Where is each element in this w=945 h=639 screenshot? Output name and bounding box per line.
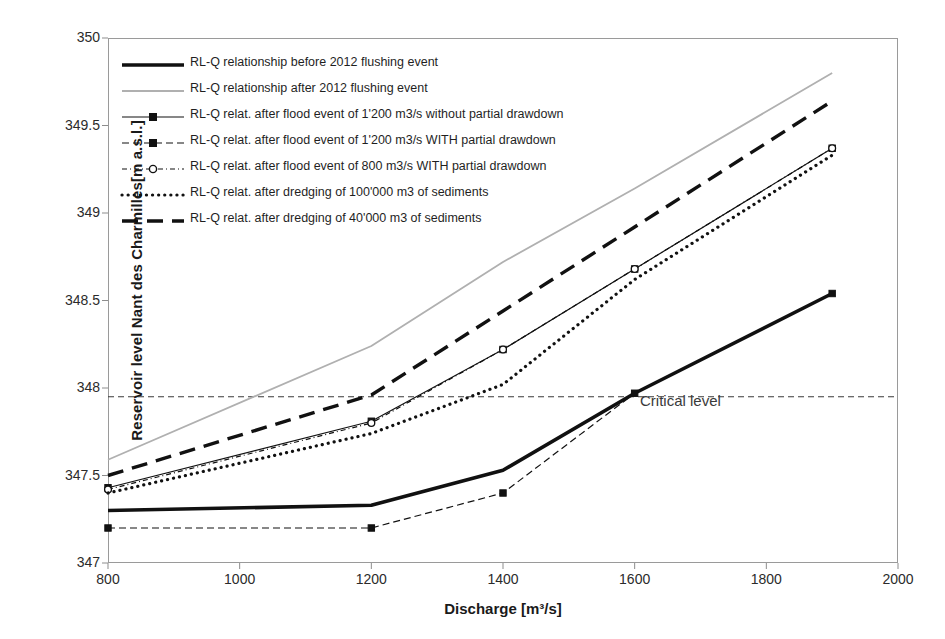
y-tick-label: 348.5: [48, 292, 100, 308]
legend-item-label: RL-Q relat. after dredging of 100'000 m3…: [190, 185, 488, 199]
legend-line-sample: [120, 104, 186, 130]
data-point: [500, 346, 507, 353]
legend-item-label: RL-Q relat. after flood event of 1'200 m…: [190, 107, 563, 121]
y-tick-label: 349.5: [48, 117, 100, 133]
legend-line-sample: [120, 208, 186, 234]
legend-item[interactable]: RL-Q relat. after dredging of 40'000 m3 …: [120, 208, 740, 234]
data-point: [829, 290, 835, 296]
y-tick-label: 347.5: [48, 467, 100, 483]
legend-item[interactable]: RL-Q relationship before 2012 flushing e…: [120, 52, 740, 78]
data-point: [368, 420, 375, 427]
data-point: [105, 525, 111, 531]
series-0: [108, 294, 832, 511]
x-tick-label: 1000: [205, 571, 275, 587]
x-tick-label: 2000: [863, 571, 933, 587]
legend-item[interactable]: RL-Q relat. after flood event of 800 m3/…: [120, 156, 740, 182]
legend-line-sample: [120, 156, 186, 182]
data-point: [500, 490, 506, 496]
x-tick-label: 1800: [731, 571, 801, 587]
y-tick-label: 347: [48, 554, 100, 570]
x-tick-label: 1200: [336, 571, 406, 587]
legend-item-label: RL-Q relat. after dredging of 40'000 m3 …: [190, 211, 481, 225]
data-point: [631, 266, 638, 273]
legend-item[interactable]: RL-Q relat. after dredging of 100'000 m3…: [120, 182, 740, 208]
series-3: [105, 290, 836, 531]
legend-item[interactable]: RL-Q relat. after flood event of 1'200 m…: [120, 104, 740, 130]
legend-item-label: RL-Q relationship after 2012 flushing ev…: [190, 81, 428, 95]
x-tick-label: 800: [73, 571, 143, 587]
legend-line-sample: [120, 182, 186, 208]
chart-figure: Reservoir level Nant des Charmilles[m a.…: [0, 0, 945, 639]
legend-line-sample: [120, 130, 186, 156]
data-point: [368, 525, 374, 531]
legend-item[interactable]: RL-Q relat. after flood event of 1'200 m…: [120, 130, 740, 156]
plot-area: RL-Q relationship before 2012 flushing e…: [108, 38, 898, 563]
x-axis-title: Discharge [m³/s]: [108, 600, 898, 617]
critical-level-label: Critical level: [640, 392, 721, 409]
y-tick-label: 348: [48, 379, 100, 395]
legend-item-label: RL-Q relat. after flood event of 1'200 m…: [190, 133, 556, 147]
x-tick-label: 1400: [468, 571, 538, 587]
x-tick-label: 1600: [600, 571, 670, 587]
legend: RL-Q relationship before 2012 flushing e…: [120, 52, 740, 234]
y-tick-label: 350: [48, 29, 100, 45]
legend-item-label: RL-Q relationship before 2012 flushing e…: [190, 55, 438, 69]
y-tick-label: 349: [48, 204, 100, 220]
legend-item[interactable]: RL-Q relationship after 2012 flushing ev…: [120, 78, 740, 104]
legend-item-label: RL-Q relat. after flood event of 800 m3/…: [190, 159, 546, 173]
data-point: [829, 145, 836, 152]
legend-line-sample: [120, 52, 186, 78]
data-point: [631, 390, 637, 396]
legend-line-sample: [120, 78, 186, 104]
